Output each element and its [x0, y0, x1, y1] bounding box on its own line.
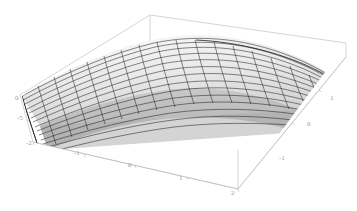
surface-plot-figure: 0 -5 -2 -1 0 1 2 -1 0 1 [0, 0, 357, 211]
y-axis-tick-minus1: -1 [279, 155, 285, 162]
surface-mesh [22, 35, 352, 153]
x-axis-tick-1: 1 [179, 175, 183, 182]
x-axis-tick-minus1: -1 [74, 150, 80, 157]
z-axis-tick-minus5: -5 [17, 115, 23, 122]
x-axis-tick-minus2: -2 [26, 140, 32, 147]
y-axis-tick-0: 0 [307, 121, 311, 128]
z-axis-tick-0: 0 [15, 95, 19, 102]
y-axis-tick-1: 1 [330, 95, 334, 102]
x-axis-tick-0: 0 [128, 162, 132, 169]
x-axis-tick-2: 2 [231, 190, 235, 197]
